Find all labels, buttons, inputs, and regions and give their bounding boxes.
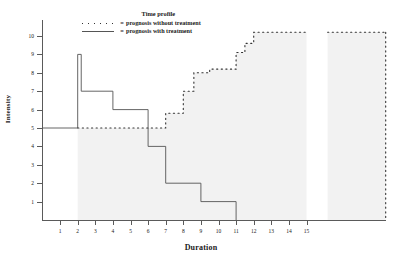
chart-container: Time profile = prognosis without treatme… xyxy=(0,0,402,263)
shaded-region-without-treatment xyxy=(78,32,386,220)
chart-plot-layer xyxy=(0,0,402,263)
